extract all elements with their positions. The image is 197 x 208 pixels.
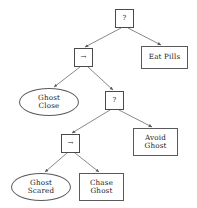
node-eat-pills[interactable]: Eat Pills (141, 46, 188, 69)
behavior-tree-diagram: ?→Eat PillsGhostClose?→AvoidGhostGhostSc… (0, 0, 197, 208)
edge-selector-2-to-avoid-ghost (119, 110, 152, 127)
edge-sequence-1-to-selector-2 (88, 67, 113, 90)
edge-sequence-1-to-ghost-close (54, 67, 80, 87)
node-sequence-1[interactable]: → (74, 48, 93, 67)
edge-root-selector-to-eat-pills (128, 28, 161, 45)
node-label: ChaseGhost (90, 179, 113, 195)
node-label-line: Eat Pills (149, 53, 180, 61)
node-label: AvoidGhost (144, 134, 166, 150)
edge-sequence-2-to-ghost-scared (45, 153, 67, 172)
edge-selector-2-to-sequence-2 (72, 110, 110, 133)
node-selector-2[interactable]: ? (105, 91, 124, 110)
node-label-line: Close (38, 102, 60, 110)
node-chase-ghost[interactable]: ChaseGhost (79, 173, 124, 201)
node-label: GhostClose (38, 94, 60, 110)
edge-sequence-2-to-chase-ghost (75, 153, 99, 172)
node-avoid-ghost[interactable]: AvoidGhost (133, 128, 178, 156)
node-ghost-close[interactable]: GhostClose (19, 88, 79, 116)
question-mark-icon: ? (113, 97, 117, 104)
node-label: Eat Pills (149, 53, 180, 61)
node-root-selector[interactable]: ? (115, 9, 134, 28)
node-label-line: Ghost (90, 187, 113, 195)
question-mark-icon: ? (123, 15, 127, 22)
right-arrow-icon: → (81, 54, 87, 61)
node-sequence-2[interactable]: → (61, 134, 80, 153)
edge-root-selector-to-sequence-1 (85, 28, 121, 47)
node-label: GhostScared (28, 179, 54, 195)
node-ghost-scared[interactable]: GhostScared (11, 173, 71, 201)
node-label-line: Scared (28, 187, 54, 195)
right-arrow-icon: → (68, 140, 74, 147)
node-label-line: Ghost (144, 142, 166, 150)
